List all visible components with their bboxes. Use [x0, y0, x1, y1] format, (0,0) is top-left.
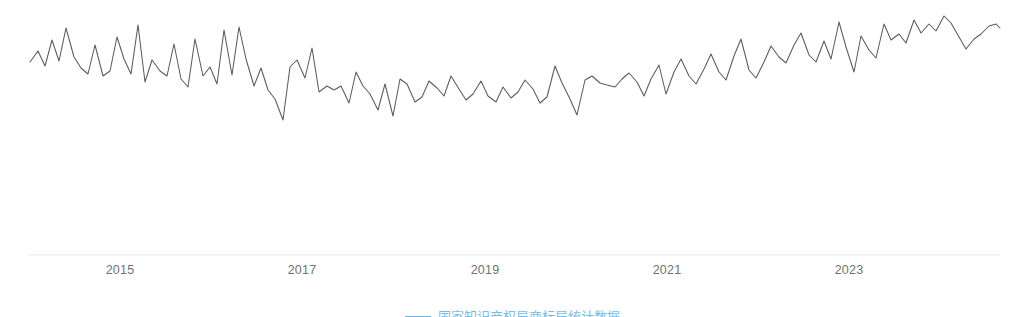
x-tick-label-2023: 2023 [835, 262, 864, 278]
x-tick-label-2015: 2015 [106, 262, 135, 278]
x-tick-label-2017: 2017 [288, 262, 317, 278]
x-tick-label-2019: 2019 [471, 262, 500, 278]
plot-area [0, 0, 1024, 258]
x-tick-label-2021: 2021 [653, 262, 682, 278]
chart-figure: 2015 2017 2019 2021 2023 国家知识产权局商标局统计数据 [0, 0, 1024, 317]
legend-entry[interactable]: 国家知识产权局商标局统计数据 [405, 306, 620, 317]
legend-entry-label: 国家知识产权局商标局统计数据 [438, 306, 620, 317]
x-axis-tick-labels: 2015 2017 2019 2021 2023 [0, 262, 1024, 282]
series-svg [0, 0, 1024, 258]
series-line-trademark-statistics [30, 16, 1000, 120]
legend-inner: 国家知识产权局商标局统计数据 [0, 306, 1024, 317]
x-axis-line [28, 254, 1000, 256]
chart-legend: 国家知识产权局商标局统计数据 [0, 306, 1024, 317]
